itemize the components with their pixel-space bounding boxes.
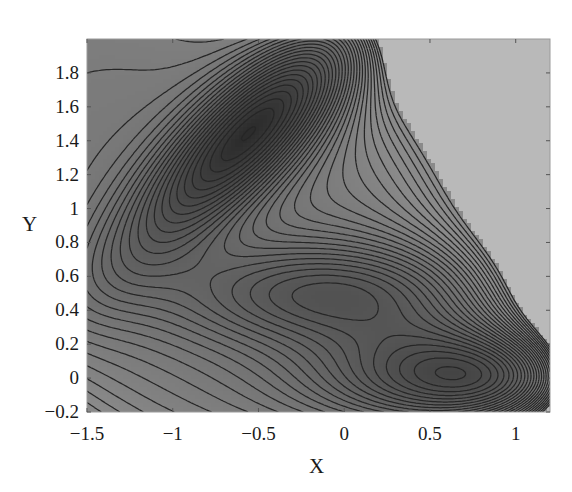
y-tick-label: 0 [19, 368, 79, 387]
y-axis-title: Y [22, 214, 37, 235]
y-tick-label: 0.6 [19, 266, 79, 285]
y-tick-label: 0.4 [19, 300, 79, 319]
contour-figure: −0.200.20.40.60.811.21.41.61.8 −1.5−1−0.… [0, 0, 572, 492]
x-tick-label: −1.5 [57, 424, 117, 443]
y-tick-label: −0.2 [19, 402, 79, 421]
x-tick-label: −1 [143, 424, 203, 443]
y-tick-label: 1.8 [19, 63, 79, 82]
y-tick-label: 1.2 [19, 165, 79, 184]
x-tick-label: 1 [486, 424, 546, 443]
y-tick-label: 1.4 [19, 131, 79, 150]
x-tick-label: 0 [314, 424, 374, 443]
x-axis-title: X [309, 456, 324, 477]
contour-plot-area [0, 0, 572, 492]
x-tick-label: −0.5 [228, 424, 288, 443]
x-tick-label: 0.5 [400, 424, 460, 443]
y-tick-label: 0.2 [19, 334, 79, 353]
y-tick-label: 1.6 [19, 97, 79, 116]
